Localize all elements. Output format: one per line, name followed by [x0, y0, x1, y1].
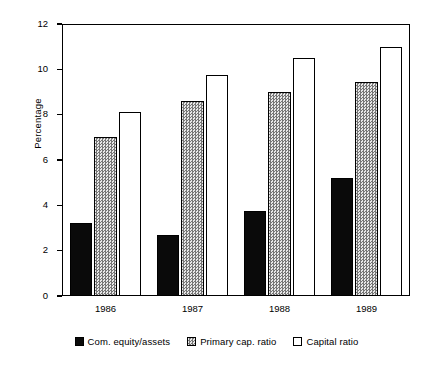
y-tick-label: 2: [22, 245, 48, 255]
legend-item: Com. equity/assets: [75, 336, 171, 347]
legend-swatch: [187, 337, 196, 346]
legend-label: Primary cap. ratio: [200, 336, 276, 347]
bar: [355, 82, 378, 296]
legend-item: Capital ratio: [293, 336, 358, 347]
legend-swatch: [293, 337, 302, 346]
x-tick-label: 1987: [158, 303, 228, 314]
y-tick-label: 6: [22, 155, 48, 165]
x-tick-label: 1989: [332, 303, 402, 314]
x-tick-label: 1988: [245, 303, 315, 314]
bar: [119, 112, 142, 296]
bar: [206, 75, 229, 296]
bar: [94, 137, 117, 296]
legend-item: Primary cap. ratio: [187, 336, 276, 347]
bar: [331, 178, 354, 296]
y-tick-label: 12: [22, 19, 48, 29]
chart-figure: Percentage 024681012 1986198719881989 Co…: [0, 0, 433, 373]
y-tick-label: 0: [22, 291, 48, 301]
chart-legend: Com. equity/assetsPrimary cap. ratioCapi…: [0, 336, 433, 347]
bar: [293, 58, 316, 296]
y-tick-label: 4: [22, 200, 48, 210]
bar: [244, 211, 267, 296]
bar: [70, 223, 93, 296]
bar: [380, 47, 403, 296]
bar: [268, 92, 291, 296]
y-tick-label: 8: [22, 109, 48, 119]
bar: [181, 101, 204, 296]
x-tick-label: 1986: [71, 303, 141, 314]
bar: [157, 235, 180, 296]
legend-label: Capital ratio: [306, 336, 358, 347]
legend-swatch: [75, 337, 84, 346]
legend-label: Com. equity/assets: [88, 336, 171, 347]
bars-layer: [62, 24, 410, 296]
y-tick-label: 10: [22, 64, 48, 74]
